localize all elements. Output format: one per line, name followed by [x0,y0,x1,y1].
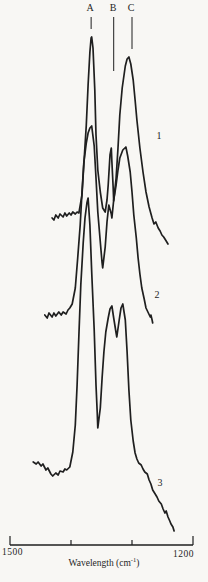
spectrum-trace-1 [52,37,168,244]
curve-label-3: 3 [158,477,163,488]
spectrum-trace-2 [45,126,153,323]
band-label-c: C [128,2,135,13]
curve-label-2: 2 [155,289,160,300]
x-axis-tick-label-1200: 1200 [173,549,194,559]
x-axis-title-close: ) [136,558,139,568]
curve-label-1: 1 [157,130,162,141]
x-axis-title: Wavelength (cm-1) [69,558,140,568]
band-label-b: B [110,2,117,13]
ir-spectra-figure: A B C 1 2 3 1500 1200 Wavelength (cm-1) [0,0,208,582]
spectra-plot-canvas [0,0,208,582]
spectrum-trace-3 [33,198,174,531]
x-axis-title-text: Wavelength (cm [69,558,131,568]
x-axis-tick-label-1500: 1500 [2,547,23,557]
band-label-a: A [86,2,93,13]
